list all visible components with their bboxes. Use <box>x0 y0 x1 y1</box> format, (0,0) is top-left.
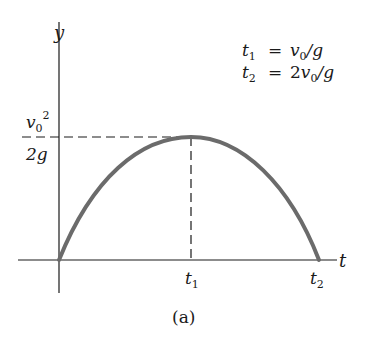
t2-tick-label: t2 <box>310 268 324 291</box>
y-axis-label: y <box>53 22 65 43</box>
equation-t1: t1 = v0/g <box>242 40 323 63</box>
figure-caption: (a) <box>172 307 195 327</box>
trajectory-curve <box>59 137 319 260</box>
svg-text:=: = <box>268 62 282 82</box>
svg-text:v02: v02 <box>26 109 50 135</box>
equation-t2: t2 = 2v0/g <box>242 62 334 85</box>
svg-text:t1: t1 <box>242 40 256 63</box>
svg-text:2g: 2g <box>25 144 48 164</box>
svg-text:=: = <box>268 40 282 60</box>
svg-text:v0/g: v0/g <box>290 40 323 63</box>
t-axis-label: t <box>339 250 347 271</box>
trajectory-diagram: y t v02 2g t1 t2 t1 = v0/g t2 = 2v0/g (a… <box>0 0 367 338</box>
svg-text:2v0/g: 2v0/g <box>290 62 334 85</box>
t1-tick-label: t1 <box>185 268 199 291</box>
svg-text:t2: t2 <box>242 62 256 85</box>
